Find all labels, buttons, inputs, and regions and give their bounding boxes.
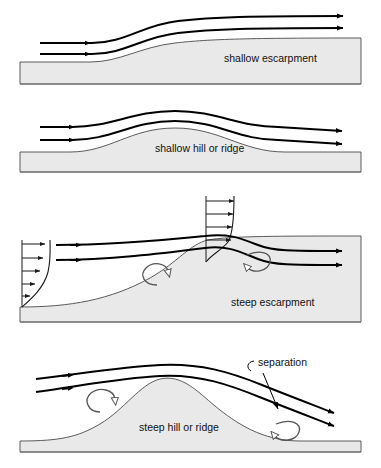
- streamline-arrowhead-upper-panel4: [62, 375, 71, 376]
- velocity-profile-upstream: [22, 240, 50, 307]
- panel-label-steep-escarpment: steep escarpment: [231, 296, 315, 308]
- eddy-leeward-panel4: [275, 421, 299, 440]
- panel-steep-hill-or-ridge: separation steep hill or ridge: [20, 356, 361, 452]
- panel-steep-escarpment: steep escarpment: [20, 196, 361, 322]
- panel-label-shallow-escarpment: shallow escarpment: [224, 52, 317, 64]
- profile-curve-upstream: [22, 240, 50, 307]
- streamline-arrowhead-lower-panel4: [62, 388, 71, 389]
- separation-label-hook: [248, 361, 254, 371]
- panel-shallow-escarpment: shallow escarpment: [20, 16, 361, 84]
- panel-label-steep-hill-or-ridge: steep hill or ridge: [139, 421, 219, 433]
- panel-label-shallow-hill-or-ridge: shallow hill or ridge: [155, 142, 244, 154]
- separation-annotation-label: separation: [258, 356, 307, 368]
- eddy-windward-panel4: [87, 389, 115, 412]
- terrain-steep-hill: [20, 378, 361, 452]
- terrain-wind-flow-figure: shallow escarpment shallow hill or ridge: [0, 0, 381, 468]
- panel-shallow-hill-or-ridge: shallow hill or ridge: [20, 111, 361, 172]
